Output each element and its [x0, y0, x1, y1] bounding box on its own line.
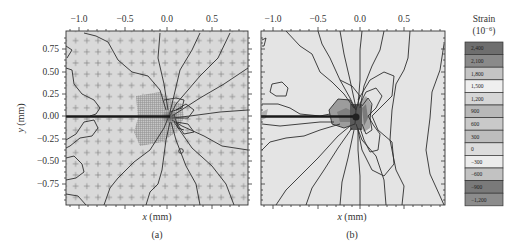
panel-b-x-tick-label: −0.5 [309, 14, 326, 24]
panel-a-label: (a) [151, 229, 162, 241]
panel-b-x-tick-label: −1.0 [264, 14, 281, 24]
colorbar-level-label: 0 [471, 146, 474, 152]
panel-a: −1.0 −0.5 0.0 0.5 0.75 0.50 0.25 0.00 −0… [15, 14, 252, 241]
panel-a-plot-area [66, 31, 248, 205]
panel-a-y-tick-label: −0.50 [37, 156, 59, 166]
panel-a-x-axis-label: x (mm) [141, 211, 171, 223]
panel-a-y-axis-label: y (mm) [15, 103, 27, 133]
panel-b-label: (b) [346, 229, 358, 241]
panel-b: −1.0 −0.5 0.0 0.5 x (mm) (b) [261, 14, 445, 241]
panel-a-y-tick-label: −0.75 [37, 179, 59, 189]
panel-b-plot-area [261, 31, 445, 205]
strain-figure: −1.0 −0.5 0.0 0.5 0.75 0.50 0.25 0.00 −0… [0, 0, 506, 251]
colorbar: Strain (10−6) 2,4002,1001,8001,5001,2009… [465, 14, 503, 206]
colorbar-level-label: 600 [471, 121, 480, 127]
panel-a-y-tick-label: −0.25 [37, 134, 59, 144]
colorbar-level-label: 2,100 [471, 58, 484, 64]
colorbar-level-label: −300 [471, 159, 483, 165]
colorbar-level-label: 2,400 [471, 45, 484, 51]
panel-a-x-tick-label: −1.0 [70, 14, 87, 24]
panel-b-x-tick-label: 0.0 [354, 14, 366, 24]
panel-a-y-tick-label: 0.00 [42, 111, 59, 121]
colorbar-title: Strain [473, 14, 496, 24]
colorbar-unit: (10−6) [473, 25, 496, 38]
panel-b-x-axis-label: x (mm) [336, 211, 366, 223]
panel-b-x-tick-label: 0.5 [398, 14, 410, 24]
panel-a-x-tick-label: 0.5 [206, 14, 218, 24]
panel-a-y-tick-label: 0.75 [42, 44, 59, 54]
panel-a-y-tick-label: 0.50 [42, 67, 59, 77]
colorbar-level-label: 1,200 [471, 96, 484, 102]
colorbar-level-label: −600 [471, 171, 483, 177]
colorbar-level-label: 1,800 [471, 71, 484, 77]
colorbar-level-label: 1,500 [471, 83, 484, 89]
colorbar-cells: 2,4002,1001,8001,5001,2009006003000−300−… [465, 42, 503, 206]
colorbar-level-label: −1,200 [471, 197, 487, 203]
colorbar-level-label: −900 [471, 184, 483, 190]
panel-a-x-tick-label: 0.0 [161, 14, 173, 24]
panel-a-y-tick-label: 0.25 [42, 89, 59, 99]
colorbar-level-label: 300 [471, 134, 480, 140]
panel-a-x-tick-label: −0.5 [116, 14, 133, 24]
colorbar-level-label: 900 [471, 108, 480, 114]
